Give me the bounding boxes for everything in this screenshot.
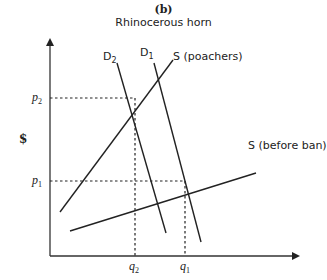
- label-d2: D2: [103, 51, 117, 65]
- y-axis-label: $: [19, 133, 27, 145]
- tick-p2: p2: [32, 91, 42, 106]
- demand-curve-d2: [117, 63, 166, 233]
- label-s-before-ban: S (before ban): [248, 140, 327, 151]
- tick-q1: q1: [180, 260, 190, 275]
- label-d1: D1: [140, 47, 154, 61]
- label-s-poachers: S (poachers): [173, 51, 243, 62]
- supply-curve-poachers: [60, 60, 173, 212]
- tick-q2: q2: [129, 260, 139, 275]
- tick-p1: p1: [32, 174, 42, 189]
